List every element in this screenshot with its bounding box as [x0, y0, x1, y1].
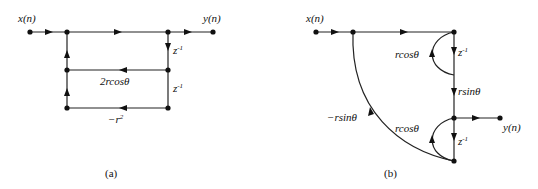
- arrow-right-icon: [114, 29, 122, 35]
- gain-label-neg-r2: −r2: [108, 113, 124, 125]
- edge-loop-top-b: [432, 32, 454, 75]
- gain-label-rcos-bottom: rcosθ: [395, 122, 420, 134]
- node-a: [64, 29, 69, 34]
- arrow-down-icon: [165, 43, 171, 51]
- arrow-right-icon: [45, 29, 53, 35]
- arrow-up-icon: [64, 50, 70, 58]
- node-a: [165, 67, 170, 72]
- arrow-down-icon: [451, 88, 457, 96]
- node-a: [64, 67, 69, 72]
- node-b: [451, 29, 456, 34]
- z-inverse-label-a-1: z-1: [172, 44, 183, 56]
- diagram-a: x(n) y(n) z-1 z-1 2rcosθ −r2 (a): [17, 12, 221, 180]
- output-label-b: y(n): [502, 121, 521, 134]
- z-inverse-label-b-2: z-1: [457, 135, 468, 147]
- node-input-b: [313, 29, 318, 34]
- gain-label-neg-rsin: −rsinθ: [327, 111, 358, 123]
- arrow-left-icon: [119, 67, 127, 73]
- arrow-right-icon: [400, 29, 408, 35]
- arrow-down-icon: [451, 133, 457, 141]
- arrow-right-icon: [331, 29, 339, 35]
- node-a: [64, 105, 69, 110]
- arrow-up-icon: [64, 88, 70, 96]
- diagram-b: x(n) y(n) rcosθ z-1 rsinθ −rsinθ rcosθ z…: [305, 12, 521, 180]
- arrow-right-icon: [472, 115, 480, 121]
- node-output-b: [497, 115, 502, 120]
- arrow-right-icon: [184, 29, 192, 35]
- node-b: [350, 29, 355, 34]
- edge-loop-bottom-b: [432, 118, 454, 161]
- caption-b: (b): [384, 167, 397, 180]
- node-output-a: [210, 29, 215, 34]
- input-label-b: x(n): [305, 12, 324, 25]
- arrow-left-icon: [119, 105, 127, 111]
- node-a: [165, 29, 170, 34]
- caption-a: (a): [105, 167, 118, 180]
- z-inverse-label-b-1: z-1: [457, 46, 468, 58]
- gain-label-rsin: rsinθ: [458, 85, 481, 97]
- node-b: [451, 115, 456, 120]
- node-input-a: [27, 29, 32, 34]
- gain-label-2rcos: 2rcosθ: [100, 75, 130, 87]
- arrow-up-left-icon: [368, 107, 374, 116]
- arrow-up-icon: [429, 135, 435, 143]
- input-label-a: x(n): [17, 12, 36, 25]
- arrow-up-icon: [429, 49, 435, 57]
- node-b: [451, 158, 456, 163]
- z-inverse-label-a-2: z-1: [172, 82, 183, 94]
- node-a: [165, 105, 170, 110]
- output-label-a: y(n): [202, 12, 221, 25]
- arrow-down-icon: [451, 47, 457, 55]
- signal-flow-diagrams: x(n) y(n) z-1 z-1 2rcosθ −r2 (a): [0, 0, 538, 189]
- gain-label-rcos-top: rcosθ: [395, 48, 420, 60]
